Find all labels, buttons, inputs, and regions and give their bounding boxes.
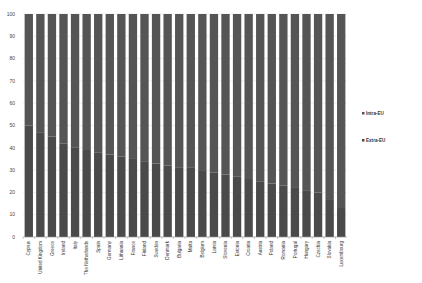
bar-segment-extra-eu — [48, 137, 56, 237]
bar-segment-extra-eu — [94, 152, 102, 237]
y-tick-label: 70 — [9, 78, 15, 84]
x-tick-label: Bulgaria — [177, 241, 182, 258]
bar-segment-intra-eu — [94, 14, 102, 152]
bar-segment-intra-eu — [291, 14, 299, 188]
bar-segment-extra-eu — [198, 170, 206, 237]
x-tick-label: Romania — [281, 241, 286, 260]
bar-segment-intra-eu — [152, 14, 160, 163]
bar-segment-intra-eu — [175, 14, 183, 168]
y-tick-label: 100 — [7, 11, 16, 17]
bar-segment-intra-eu — [59, 14, 67, 143]
bar-segment-extra-eu — [140, 161, 148, 237]
bar-segment-extra-eu — [129, 159, 137, 237]
x-tick-label: Latvia — [212, 241, 217, 254]
bar-segment-intra-eu — [244, 14, 252, 179]
x-tick-label: Estonia — [235, 241, 240, 257]
bar-group — [256, 14, 264, 237]
x-tick-label: Poland — [269, 241, 274, 256]
x-tick-label: Germany — [107, 240, 112, 260]
y-tick-label: 30 — [9, 167, 15, 173]
bar-segment-extra-eu — [268, 183, 276, 237]
bar-segment-intra-eu — [36, 14, 44, 132]
bar-segment-intra-eu — [302, 14, 310, 190]
x-tick-label: Greece — [50, 241, 55, 257]
x-tick-label: Croatia — [246, 241, 251, 256]
bar-group — [71, 14, 79, 237]
bar-segment-extra-eu — [337, 208, 345, 237]
x-tick-label: Austria — [258, 241, 263, 256]
bar-segment-extra-eu — [187, 168, 195, 237]
bar-segment-extra-eu — [233, 177, 241, 237]
bar-group — [187, 14, 195, 237]
bar-segment-extra-eu — [279, 186, 287, 237]
bar-segment-intra-eu — [71, 14, 79, 148]
bar-segment-intra-eu — [325, 14, 333, 199]
legend-swatch-extra-eu — [362, 139, 365, 142]
x-tick-label: Sweden — [154, 241, 159, 258]
bar-group — [106, 14, 114, 237]
x-axis: CyprusUnited KingdomGreeceIrelandItalyTh… — [23, 237, 347, 275]
bar-group — [59, 14, 67, 237]
stacked-bar-chart: 0102030405060708090100 CyprusUnited King… — [0, 0, 422, 283]
bar-segment-intra-eu — [163, 14, 171, 166]
legend-item-extra-eu: Extra-EU — [362, 138, 386, 143]
bar-segment-extra-eu — [163, 166, 171, 237]
x-tick-label: France — [131, 241, 136, 256]
bar-segment-extra-eu — [221, 175, 229, 237]
bar-group — [210, 14, 218, 237]
y-tick-label: 0 — [12, 234, 15, 240]
bar-segment-extra-eu — [291, 188, 299, 237]
bar-group — [325, 14, 333, 237]
bar-segment-extra-eu — [59, 143, 67, 237]
bar-group — [233, 14, 241, 237]
x-tick-label: Luxembourg — [339, 241, 344, 267]
bar-segment-intra-eu — [25, 14, 33, 126]
legend-label-intra-eu: Intra-EU — [366, 111, 385, 116]
bar-segment-intra-eu — [48, 14, 56, 137]
bar-segment-intra-eu — [140, 14, 148, 161]
bar-segment-extra-eu — [256, 181, 264, 237]
x-tick-label: Czechia — [316, 241, 321, 258]
bar-segment-extra-eu — [117, 157, 125, 237]
bar-segment-extra-eu — [106, 154, 114, 237]
y-tick-label: 60 — [9, 100, 15, 106]
bar-group — [94, 14, 102, 237]
x-tick-label: Cyprus — [26, 240, 31, 255]
bar-segment-intra-eu — [268, 14, 276, 183]
bar-group — [279, 14, 287, 237]
bar-group — [140, 14, 148, 237]
bar-group — [221, 14, 229, 237]
bar-group — [302, 14, 310, 237]
y-tick-label: 40 — [9, 145, 15, 151]
bar-segment-extra-eu — [25, 126, 33, 238]
bar-group — [175, 14, 183, 237]
x-tick-label: Slovakia — [327, 241, 332, 259]
bar-segment-intra-eu — [187, 14, 195, 168]
y-axis: 0102030405060708090100 — [7, 11, 16, 240]
x-tick-label: Italy — [73, 240, 78, 249]
bar-segment-extra-eu — [82, 150, 90, 237]
bar-segment-intra-eu — [256, 14, 264, 181]
x-tick-label: Finland — [142, 241, 147, 257]
bar-segment-extra-eu — [152, 163, 160, 237]
bar-segment-intra-eu — [129, 14, 137, 159]
y-tick-label: 20 — [9, 189, 15, 195]
bar-segment-intra-eu — [210, 14, 218, 172]
bar-segment-extra-eu — [36, 132, 44, 237]
bar-group — [25, 14, 33, 237]
y-tick-label: 90 — [9, 33, 15, 39]
bar-group — [36, 14, 44, 237]
bar-group — [117, 14, 125, 237]
bar-group — [129, 14, 137, 237]
x-tick-label: Malta — [188, 241, 193, 253]
x-tick-label: Ireland — [61, 241, 66, 255]
bar-segment-extra-eu — [71, 148, 79, 237]
bar-segment-intra-eu — [337, 14, 345, 208]
bar-group — [268, 14, 276, 237]
bar-segment-intra-eu — [198, 14, 206, 170]
bar-group — [163, 14, 171, 237]
x-tick-label: Denmark — [165, 240, 170, 259]
bar-segment-extra-eu — [244, 179, 252, 237]
bar-group — [337, 14, 345, 237]
bar-segment-intra-eu — [106, 14, 114, 154]
